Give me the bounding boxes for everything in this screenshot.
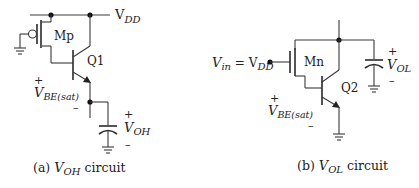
npn-transistor-q2: Q2: [322, 40, 358, 134]
caption-b: (b) VOL circuit: [297, 158, 388, 175]
mosfet-label-mp: Mp: [54, 29, 74, 43]
ground-icon: [14, 48, 26, 54]
bjt-label-q2: Q2: [341, 81, 358, 95]
panel-a-voh-circuit: VDD Mp: [14, 7, 151, 177]
caption-a: (a) VOH circuit: [33, 160, 126, 177]
panel-b-vol-circuit: Vin = VDD Mn Q2: [212, 20, 412, 175]
vol-label: VOL: [387, 57, 412, 74]
vbe-minus: –: [73, 101, 79, 114]
nmos-transistor-mn: Mn: [290, 40, 339, 88]
mosfet-label-mn: Mn: [304, 55, 324, 69]
vbe-label: VBE(sat): [34, 85, 79, 102]
pmos-transistor-mp: Mp: [14, 15, 74, 63]
ground-icon: [368, 86, 380, 92]
emitter-arrow-icon: [332, 101, 340, 108]
circuit-diagram: VDD Mp: [0, 0, 419, 188]
vin-label: Vin = VDD: [212, 55, 273, 72]
out-minus: –: [125, 138, 131, 151]
ground-icon: [333, 134, 345, 140]
vbe-label: VBE(sat): [268, 103, 313, 120]
vbe-minus: –: [308, 119, 314, 132]
emitter-arrow-icon: [83, 76, 91, 83]
bjt-label-q1: Q1: [87, 54, 104, 68]
voh-label: VOH: [124, 120, 151, 137]
out-minus: –: [389, 74, 395, 87]
pmos-gate-bubble: [29, 30, 37, 38]
vdd-label: VDD: [114, 7, 140, 25]
ground-icon: [102, 147, 114, 153]
